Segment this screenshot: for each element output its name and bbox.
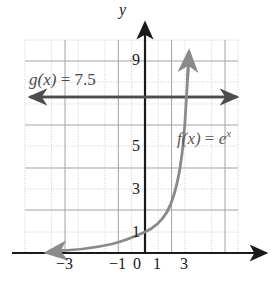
g-of-x-annotation: g(x) = 7.5 <box>29 71 96 88</box>
f-of-x-curve-arrow-left <box>47 251 62 253</box>
y-tick-label-9: 9 <box>132 52 140 68</box>
x-tick-label-3: 3 <box>180 256 188 272</box>
x-tick-label-1: 1 <box>153 256 161 272</box>
y-tick-label-5: 5 <box>132 138 140 154</box>
f-equals-sign: = <box>201 129 219 148</box>
g-equals-sign: = <box>56 70 74 89</box>
x-tick-label-0: 0 <box>133 256 141 272</box>
y-axis-label: y <box>119 2 126 18</box>
y-tick-label-3: 3 <box>132 181 140 197</box>
f-of-x-curve-arrow-top <box>188 52 189 80</box>
y-tick-label-1: 1 <box>132 224 140 240</box>
x-tick-label--3: −3 <box>56 256 73 272</box>
g-function-arg: (x) <box>38 70 57 89</box>
f-exponent-x: x <box>226 127 231 139</box>
g-value: 7.5 <box>74 70 95 89</box>
f-of-x-annotation: f(x) = ex <box>177 128 231 147</box>
g-function-name: g <box>29 70 38 89</box>
f-function-arg: (x) <box>182 129 201 148</box>
x-tick-label--1: −1 <box>109 256 126 272</box>
